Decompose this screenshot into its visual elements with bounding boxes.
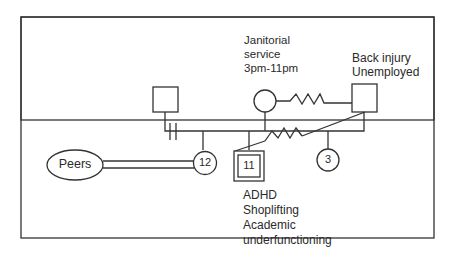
sibling-3-label: 3 bbox=[317, 153, 339, 165]
mother-note-line: 3pm-11pm bbox=[244, 61, 298, 75]
father-child-line bbox=[235, 141, 265, 151]
mother-note: Janitorial service 3pm-11pm bbox=[244, 33, 298, 75]
father-note-line: Back injury bbox=[352, 51, 419, 65]
index-child-note-line: Academic bbox=[243, 218, 332, 233]
mother-circle-icon bbox=[254, 90, 276, 112]
sibling-12-label: 12 bbox=[193, 156, 217, 168]
mother-note-line: Janitorial bbox=[244, 33, 298, 47]
father-note: Back injury Unemployed bbox=[352, 51, 419, 79]
grandfather-square-icon bbox=[153, 87, 178, 112]
index-child-note: ADHD Shoplifting Academic underfunctioni… bbox=[243, 188, 332, 248]
index-child-note-line: underfunctioning bbox=[243, 233, 332, 248]
sibship-line bbox=[165, 112, 330, 131]
father-note-line: Unemployed bbox=[352, 65, 419, 79]
index-child-label: 11 bbox=[238, 159, 260, 171]
index-child-note-line: ADHD bbox=[243, 188, 332, 203]
conflict-zigzag-icon bbox=[265, 128, 302, 141]
genogram-canvas bbox=[0, 0, 455, 275]
conflict-zigzag-icon bbox=[276, 94, 352, 104]
mother-note-line: service bbox=[244, 47, 298, 61]
peers-label: Peers bbox=[46, 157, 104, 171]
father-child-line bbox=[302, 112, 365, 136]
father-square-icon bbox=[352, 84, 377, 112]
index-child-note-line: Shoplifting bbox=[243, 203, 332, 218]
